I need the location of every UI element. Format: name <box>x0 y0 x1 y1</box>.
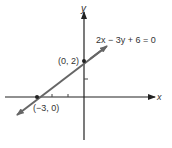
point-label-x-intercept: (−3, 0) <box>33 103 59 113</box>
y-axis-label: y <box>80 3 87 14</box>
equation-label: 2x − 3y + 6 = 0 <box>96 35 156 45</box>
point-x-intercept <box>35 95 39 99</box>
x-axis-label: x <box>156 92 162 102</box>
point-y-intercept <box>82 59 86 63</box>
coordinate-plane: y x 2x − 3y + 6 = 0 (0, 2) (−3, 0) <box>0 0 172 148</box>
equation-line-arrow-up <box>90 46 107 59</box>
point-label-y-intercept: (0, 2) <box>58 56 79 66</box>
